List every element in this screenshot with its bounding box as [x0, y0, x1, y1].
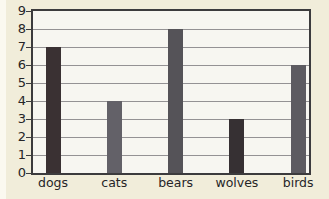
- x-axis-label-bears: bears: [144, 175, 208, 190]
- y-axis-label: 7: [0, 39, 26, 55]
- y-axis-tick: [26, 101, 31, 102]
- bar-bears: [168, 29, 183, 173]
- x-axis-label-dogs: dogs: [21, 175, 85, 190]
- y-axis-label: 4: [0, 93, 26, 109]
- y-axis-tick: [26, 137, 31, 138]
- plot-area: [31, 9, 311, 175]
- y-axis-label: 8: [0, 21, 26, 37]
- y-axis-tick: [26, 173, 31, 174]
- y-axis-label: 2: [0, 129, 26, 145]
- y-axis-tick: [26, 65, 31, 66]
- y-axis-tick: [26, 29, 31, 30]
- bar-dogs: [46, 47, 61, 173]
- x-axis-label-birds: birds: [266, 175, 329, 190]
- bar-chart: 0123456789 dogscatsbearswolvesbirds: [0, 0, 329, 199]
- y-axis-tick: [26, 155, 31, 156]
- x-axis-label-cats: cats: [82, 175, 146, 190]
- y-axis-label: 1: [0, 147, 26, 163]
- bar-birds: [291, 65, 306, 173]
- y-axis-tick: [26, 119, 31, 120]
- bar-wolves: [229, 119, 244, 173]
- y-axis-tick: [26, 11, 31, 12]
- y-axis-tick: [26, 47, 31, 48]
- y-axis-label: 3: [0, 111, 26, 127]
- y-axis-tick: [26, 83, 31, 84]
- y-axis-label: 6: [0, 57, 26, 73]
- bar-cats: [107, 101, 122, 173]
- x-axis-label-wolves: wolves: [205, 175, 269, 190]
- y-axis-label: 5: [0, 75, 26, 91]
- y-axis-label: 9: [0, 3, 26, 19]
